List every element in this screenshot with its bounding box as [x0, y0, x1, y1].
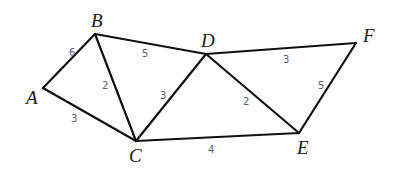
edge-weight-cd: 3: [160, 90, 166, 101]
edge-ef: [299, 43, 356, 133]
vertex-label-b: B: [91, 10, 103, 31]
edge-weight-ac: 3: [71, 113, 77, 124]
edge-weight-bd: 5: [142, 48, 148, 59]
vertex-label-e: E: [296, 137, 309, 158]
graph-svg: 632534235 ABCDEF: [0, 0, 396, 171]
vertex-label-f: F: [362, 25, 375, 46]
edge-weight-ab: 6: [69, 47, 75, 58]
edge-weight-df: 3: [283, 54, 289, 65]
edge-ab: [43, 34, 95, 88]
vertex-label-d: D: [200, 30, 215, 51]
edge-ce: [136, 133, 299, 141]
edge-weight-bc: 2: [102, 80, 108, 91]
edge-weight-de: 2: [243, 96, 249, 107]
weighted-graph-diagram: 632534235 ABCDEF: [0, 0, 396, 171]
edge-weight-ce: 4: [208, 144, 214, 155]
edges-group: [43, 34, 356, 141]
edge-df: [206, 43, 356, 54]
edge-weight-ef: 5: [318, 80, 324, 91]
vertex-label-a: A: [24, 87, 38, 108]
vertex-label-c: C: [129, 145, 142, 166]
edge-cd: [136, 54, 206, 141]
edge-ac: [43, 88, 136, 141]
edge-de: [206, 54, 299, 133]
edge-bd: [95, 34, 206, 54]
